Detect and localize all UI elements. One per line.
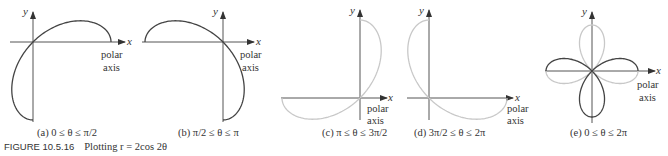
polar-axis-label: polar [101, 49, 123, 60]
panel-d: y x polar axis (d) 3π/2 ≤ θ ≤ 2π [407, 4, 529, 139]
polar-axis-label: axis [242, 62, 259, 73]
panel-caption: (c) π ≤ θ ≤ 3π/2 [322, 127, 387, 139]
y-axis-label: y [22, 5, 28, 17]
panel-c: y x polar axis (c) π ≤ θ ≤ 3π/2 [281, 4, 393, 139]
panel-caption: (d) 3π/2 ≤ θ ≤ 2π [414, 127, 486, 139]
x-axis-label: x [126, 35, 132, 47]
curve-segment [145, 21, 244, 120]
x-axis-label: x [255, 35, 261, 47]
panel-a: y x polar axis (a) 0 ≤ θ ≤ π/2 [10, 5, 132, 139]
panel-caption: (b) π/2 ≤ θ ≤ π [178, 127, 239, 139]
y-axis-label: y [349, 4, 355, 16]
figure-canvas: y x polar axis (a) 0 ≤ θ ≤ π/2 y x polar… [0, 0, 668, 156]
panel-caption: (e) 0 ≤ θ ≤ 2π [570, 127, 628, 139]
polar-axis-label: polar [507, 103, 529, 114]
polar-axis-label: polar [637, 79, 659, 90]
panel-caption: (a) 0 ≤ θ ≤ π/2 [37, 127, 97, 139]
x-axis-label: x [514, 91, 520, 103]
panel-b: y x polar axis (b) π/2 ≤ θ ≤ π [142, 5, 262, 139]
polar-axis-label: axis [507, 115, 524, 126]
figure-caption: FIGURE 10.5.16Plotting r = 2cos 2θ [4, 141, 167, 152]
polar-axis-label: polar [240, 49, 262, 60]
y-axis-label: y [418, 4, 424, 16]
figure-number: FIGURE 10.5.16 [4, 141, 74, 152]
x-axis-label: x [387, 91, 393, 103]
polar-axis-label: axis [367, 115, 384, 126]
curve-segment [12, 21, 111, 120]
x-axis-label: x [655, 64, 661, 76]
panel-e: y x polar axis (e) 0 ≤ θ ≤ 2π [545, 5, 661, 139]
y-axis-label: y [581, 5, 587, 17]
y-axis-label: y [212, 5, 218, 17]
polar-axis-label: polar [367, 103, 389, 114]
polar-axis-label: axis [103, 62, 120, 73]
figure-caption-text: Plotting r = 2cos 2θ [84, 141, 167, 152]
polar-axis-label: axis [639, 92, 656, 103]
curve-segment [408, 20, 507, 119]
